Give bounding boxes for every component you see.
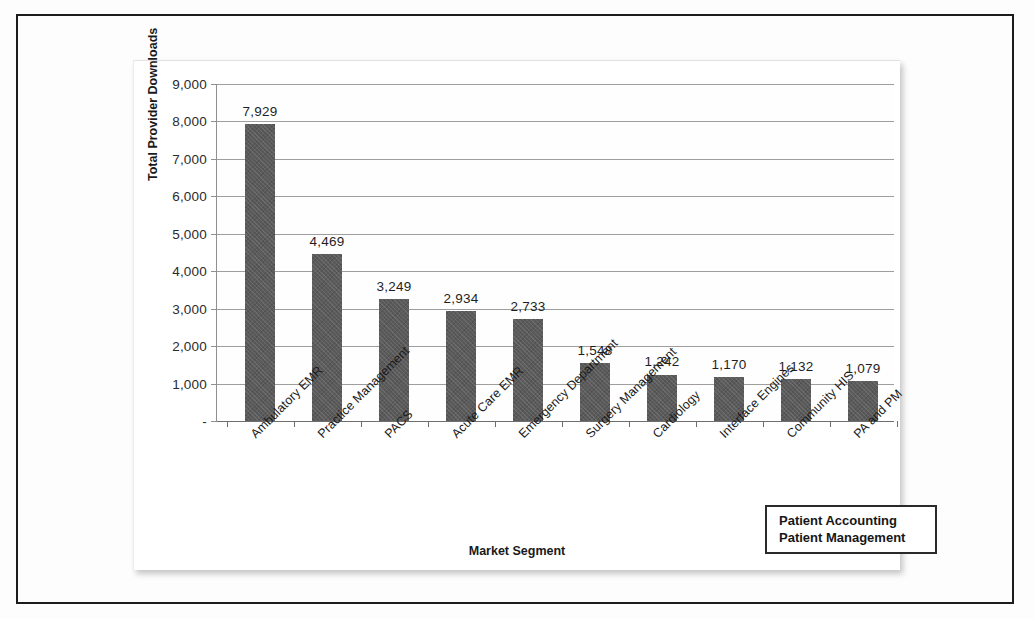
bar-value-label: 7,929 [243, 104, 278, 119]
annotation-line-2: Patient Management [779, 529, 925, 546]
plot-area: 9,0008,0007,0006,0005,0004,0003,0002,000… [216, 84, 894, 421]
annotation-callout: Patient Accounting Patient Management [765, 505, 937, 554]
x-tick-mark [696, 421, 697, 427]
x-tick-mark [897, 421, 898, 427]
y-tick-mark [211, 384, 217, 385]
bar-value-label: 2,934 [444, 291, 479, 306]
annotation-line-1: Patient Accounting [779, 512, 925, 529]
y-tick-label: 3,000 [172, 301, 207, 316]
y-tick-label: 8,000 [172, 114, 207, 129]
x-tick-mark [294, 421, 295, 427]
x-tick-mark [830, 421, 831, 427]
bar-value-label: 4,469 [310, 234, 345, 249]
y-tick-mark [211, 421, 217, 422]
y-tick-label: 9,000 [172, 77, 207, 92]
x-tick-mark [562, 421, 563, 427]
y-tick-mark [211, 84, 217, 85]
y-tick-mark [211, 271, 217, 272]
y-tick-mark [211, 234, 217, 235]
y-tick-label: 6,000 [172, 189, 207, 204]
x-tick-mark [495, 421, 496, 427]
y-tick-mark [211, 196, 217, 197]
y-tick-label: 5,000 [172, 226, 207, 241]
x-tick-mark [763, 421, 764, 427]
bar-value-label: 3,249 [377, 279, 412, 294]
bar [446, 311, 476, 421]
y-tick-label: 1,000 [172, 376, 207, 391]
x-tick-mark [629, 421, 630, 427]
y-axis-title: Total Provider Downloads [146, 28, 160, 181]
x-tick-mark [227, 421, 228, 427]
gridline [216, 159, 894, 160]
chart-panel: Total Provider Downloads 9,0008,0007,000… [133, 60, 900, 570]
bar-value-label: 2,733 [511, 299, 546, 314]
y-axis-line [216, 84, 217, 421]
y-tick-mark [211, 121, 217, 122]
scanned-page: Total Provider Downloads 9,0008,0007,000… [0, 0, 1034, 619]
y-tick-mark [211, 309, 217, 310]
y-tick-label: 4,000 [172, 264, 207, 279]
y-tick-label: 2,000 [172, 339, 207, 354]
gridline [216, 84, 894, 85]
bar-value-label: 1,170 [712, 357, 747, 372]
bar [312, 254, 342, 421]
bar [245, 124, 275, 421]
x-tick-mark [428, 421, 429, 427]
gridline [216, 196, 894, 197]
y-tick-mark [211, 346, 217, 347]
gridline [216, 121, 894, 122]
x-tick-mark [361, 421, 362, 427]
y-tick-mark [211, 159, 217, 160]
y-tick-label: - [202, 414, 207, 429]
y-tick-label: 7,000 [172, 151, 207, 166]
